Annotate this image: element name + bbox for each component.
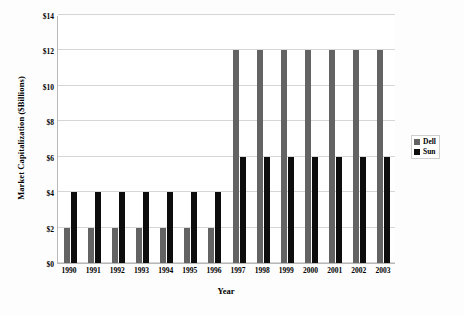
legend-label: Sun xyxy=(423,148,436,156)
x-axis-title: Year xyxy=(57,286,395,296)
y-tick-label: $0 xyxy=(26,260,54,269)
bar-group xyxy=(82,16,106,263)
bar-group xyxy=(203,16,227,263)
bar-dell xyxy=(377,50,383,263)
plot-area xyxy=(57,16,395,264)
bar-dell xyxy=(257,50,263,263)
bar-dell xyxy=(208,228,214,263)
bar-group xyxy=(251,16,275,263)
bar-sun xyxy=(288,157,294,263)
bar-sun xyxy=(264,157,270,263)
bar-sun xyxy=(95,192,101,263)
bar-dell xyxy=(329,50,335,263)
bar-sun xyxy=(215,192,221,263)
y-tick-label: $4 xyxy=(26,189,54,198)
bar-group xyxy=(299,16,323,263)
legend-label: Dell xyxy=(423,138,436,146)
bar-group xyxy=(155,16,179,263)
bar-sun xyxy=(336,157,342,263)
bar-group xyxy=(227,16,251,263)
bar-group xyxy=(324,16,348,263)
bar-chart: Market Capitalization ($Billions) $0$2$4… xyxy=(0,0,464,316)
y-tick-label: $10 xyxy=(26,82,54,91)
bar-group xyxy=(348,16,372,263)
y-tick-label: $14 xyxy=(26,12,54,21)
legend-swatch-icon xyxy=(414,139,420,145)
y-tick-label: $6 xyxy=(26,153,54,162)
bar-dell xyxy=(305,50,311,263)
bar-group xyxy=(106,16,130,263)
bars-layer xyxy=(58,16,395,263)
bar-dell xyxy=(233,50,239,263)
bar-sun xyxy=(360,157,366,263)
bar-sun xyxy=(167,192,173,263)
bar-sun xyxy=(119,192,125,263)
y-tick-label: $12 xyxy=(26,47,54,56)
legend-item-sun[interactable]: Sun xyxy=(414,148,436,156)
bar-dell xyxy=(88,228,94,263)
bar-group xyxy=(275,16,299,263)
bar-dell xyxy=(136,228,142,263)
bar-sun xyxy=(191,192,197,263)
legend-item-dell[interactable]: Dell xyxy=(414,138,436,146)
bar-sun xyxy=(312,157,318,263)
legend: DellSun xyxy=(411,135,440,159)
bar-dell xyxy=(353,50,359,263)
bar-sun xyxy=(143,192,149,263)
x-tick-label: 2003 xyxy=(368,266,398,275)
y-tick-label: $2 xyxy=(26,224,54,233)
bar-dell xyxy=(281,50,287,263)
bar-group xyxy=(58,16,82,263)
bar-dell xyxy=(64,228,70,263)
bar-dell xyxy=(184,228,190,263)
bar-dell xyxy=(160,228,166,263)
bar-sun xyxy=(384,157,390,263)
bar-group xyxy=(130,16,154,263)
bar-group xyxy=(372,16,396,263)
y-tick-label: $8 xyxy=(26,118,54,127)
bar-dell xyxy=(112,228,118,263)
x-axis-tick-labels: 1990199119921993199419951996199719981999… xyxy=(57,266,395,280)
legend-swatch-icon xyxy=(414,149,420,155)
bar-sun xyxy=(71,192,77,263)
bar-group xyxy=(179,16,203,263)
gridline xyxy=(58,14,395,15)
bar-sun xyxy=(240,157,246,263)
y-axis-tick-labels: $0$2$4$6$8$10$12$14 xyxy=(26,16,54,264)
